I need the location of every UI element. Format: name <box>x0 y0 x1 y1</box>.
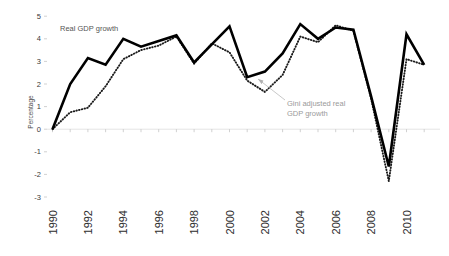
xtick-label: 2000 <box>224 210 236 234</box>
xtick-label: 1998 <box>188 210 200 234</box>
xtick-label: 1994 <box>117 210 129 234</box>
ytick-label: 0 <box>37 125 41 134</box>
ytick-label: 1 <box>37 102 41 111</box>
xtick-label: 1996 <box>153 210 165 234</box>
y-axis-tick-labels: 5 4 3 2 1 0 -1 -2 -3 <box>34 12 41 202</box>
ytick-label: 4 <box>37 34 41 43</box>
x-axis-ticks <box>53 129 425 132</box>
gini-adjusted-label-line2: GDP growth <box>287 109 328 118</box>
real-gdp-growth-label: Real GDP growth <box>60 24 118 33</box>
xtick-label: 1990 <box>47 210 59 234</box>
gdp-growth-line-chart: 5 4 3 2 1 0 -1 -2 -3 Percentage <box>0 0 449 256</box>
ytick-label: 2 <box>37 80 41 89</box>
ytick-label: 5 <box>37 12 41 21</box>
xtick-label: 2008 <box>365 210 377 234</box>
xtick-label: 1992 <box>82 210 94 234</box>
real-gdp-growth-line <box>53 24 425 166</box>
y-axis-ticks <box>44 16 47 197</box>
xtick-label: 2006 <box>330 210 342 234</box>
ytick-label: 3 <box>37 57 41 66</box>
chart-container: 5 4 3 2 1 0 -1 -2 -3 Percentage <box>0 0 449 256</box>
gini-adjusted-label-line1: Gini adjusted real <box>287 99 346 108</box>
ytick-label: -1 <box>34 147 41 156</box>
xtick-label: 2010 <box>401 210 413 234</box>
y-axis-title: Percentage <box>27 95 35 129</box>
ytick-label: -3 <box>34 193 41 202</box>
x-axis-tick-labels: 1990 1992 1994 1996 1998 2000 2002 2004 … <box>47 210 413 234</box>
ytick-label: -2 <box>34 170 41 179</box>
annotation-arrowhead-icon <box>258 79 263 84</box>
xtick-label: 2004 <box>294 210 306 234</box>
xtick-label: 2002 <box>259 210 271 234</box>
